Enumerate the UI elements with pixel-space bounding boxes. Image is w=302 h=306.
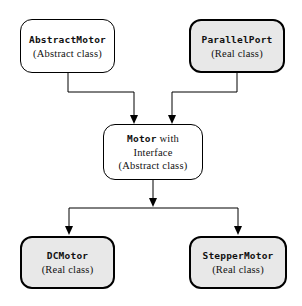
arrowhead-icon	[149, 198, 157, 207]
class-name: ParallelPort	[201, 33, 272, 47]
class-name: AbstractMotor	[29, 33, 106, 47]
edge-bar-to-children	[69, 208, 238, 227]
class-kind-label: (Real class)	[211, 47, 263, 60]
node-abstract-motor: AbstractMotor (Abstract class)	[20, 19, 115, 73]
class-name-mono: Motor	[127, 133, 157, 144]
class-kind-label: (Real class)	[42, 263, 94, 276]
class-kind-label: (Abstract class)	[33, 47, 102, 60]
class-name: StepperMotor	[202, 249, 273, 263]
class-name: DCMotor	[47, 249, 88, 263]
arrowhead-icon	[168, 115, 176, 124]
node-dc-motor: DCMotor (Real class)	[20, 236, 115, 289]
node-motor: Motor with Interface (Abstract class)	[103, 124, 203, 180]
class-kind-label: (Abstract class)	[119, 159, 188, 172]
edge-abstractmotor-to-motor	[68, 73, 134, 116]
node-parallel-port: ParallelPort (Real class)	[189, 19, 285, 73]
class-name: Motor with	[127, 132, 179, 146]
class-diagram: AbstractMotor (Abstract class) ParallelP…	[0, 0, 302, 306]
edge-parallelport-to-motor	[172, 73, 237, 116]
arrowhead-icon	[130, 115, 138, 124]
class-subtitle: Interface	[133, 146, 172, 159]
arrowhead-icon	[65, 226, 73, 235]
node-stepper-motor: StepperMotor (Real class)	[189, 236, 287, 289]
class-name-suffix: with	[157, 133, 179, 144]
arrowhead-icon	[234, 226, 242, 235]
class-kind-label: (Real class)	[212, 263, 264, 276]
